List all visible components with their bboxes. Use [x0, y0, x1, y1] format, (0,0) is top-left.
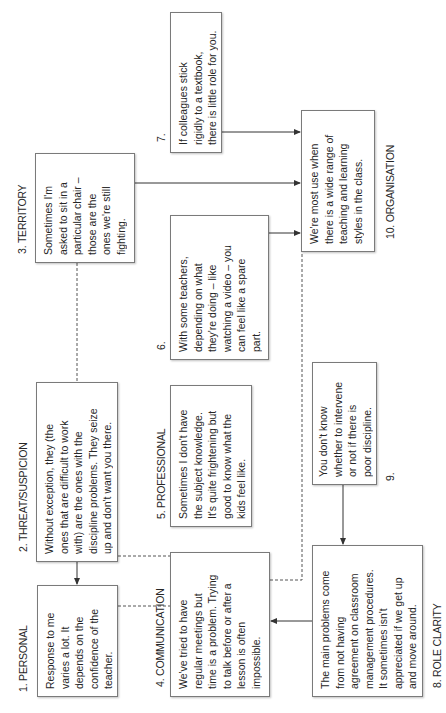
node-box-7: If colleagues stick rigidly to a textboo… — [170, 12, 222, 153]
node-label-professional: 5. PROFESSIONAL — [155, 385, 169, 522]
node-box-personal: Response to me varies a lot. It depends … — [37, 585, 118, 697]
node-text-professional: Sometimes I don't have the subject knowl… — [171, 386, 251, 526]
node-label-territory: 3. TERRITORY — [16, 153, 30, 257]
node-label-9: 9. — [384, 362, 398, 484]
node-box-territory: Sometimes I'm asked to sit in a particul… — [35, 153, 135, 263]
node-box-threat-suspicion: Without exception, they (the ones that a… — [36, 382, 118, 562]
node-label-personal: 1. PERSONAL — [17, 585, 31, 695]
node-label-communication: 4. COMMUNICATION — [154, 552, 168, 690]
node-text-role-clarity: The main problems come from not having a… — [313, 546, 422, 696]
node-text-organisation: We're most use when there is a wide rang… — [302, 111, 374, 251]
node-label-7: 7. — [155, 12, 169, 145]
node-box-organisation: We're most use when there is a wide rang… — [301, 110, 375, 252]
node-text-threat-suspicion: Without exception, they (the ones that a… — [37, 383, 117, 561]
node-label-6: 6. — [155, 215, 169, 353]
diagram-canvas: 1. PERSONAL Response to me varies a lot.… — [0, 0, 446, 713]
node-box-role-clarity: The main problems come from not having a… — [312, 545, 423, 697]
node-text-communication: We've tried to have regular meetings but… — [171, 553, 269, 696]
node-box-professional: Sometimes I don't have the subject knowl… — [170, 385, 252, 527]
node-text-personal: Response to me varies a lot. It depends … — [38, 586, 117, 696]
node-label-organisation: 10. ORGANISATION — [384, 110, 398, 242]
connector-4-to-10-dashed — [270, 253, 302, 580]
node-label-threat-suspicion: 2. THREAT/SUSPICION — [17, 382, 31, 555]
node-box-communication: We've tried to have regular meetings but… — [170, 552, 270, 697]
node-box-6: With some teachers, depending on what th… — [170, 215, 269, 360]
node-box-9: You don't know whether to intervene or n… — [312, 362, 377, 485]
node-label-role-clarity: 8. ROLE CLARITY — [431, 545, 445, 691]
node-text-territory: Sometimes I'm asked to sit in a particul… — [36, 154, 134, 262]
node-text-9: You don't know whether to intervene or n… — [313, 363, 376, 484]
node-text-6: With some teachers, depending on what th… — [171, 216, 268, 359]
node-text-7: If colleagues stick rigidly to a textboo… — [171, 13, 221, 152]
